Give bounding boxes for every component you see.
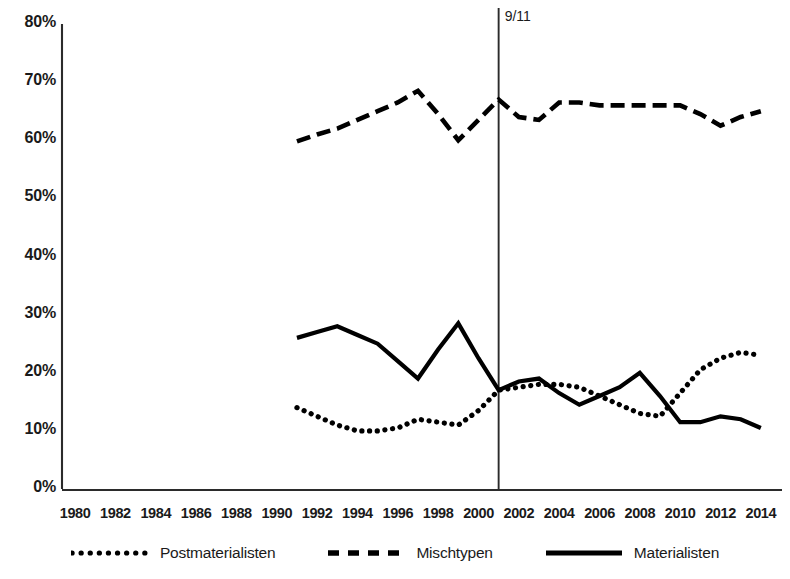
y-axis-tick-label: 70%	[0, 71, 56, 89]
x-axis-tick-label: 2008	[624, 505, 655, 521]
legend-label: Mischtypen	[416, 544, 492, 562]
legend-label: Postmaterialisten	[160, 544, 275, 562]
series-line-materialisten	[297, 323, 761, 428]
series-group	[297, 91, 761, 431]
solid-line-swatch	[545, 546, 623, 560]
y-axis-tick-label: 20%	[0, 362, 56, 380]
x-axis-tick-label: 2004	[544, 505, 575, 521]
dotted-line-swatch	[71, 546, 149, 560]
x-axis-tick-label: 1988	[221, 505, 252, 521]
y-axis-tick-label: 30%	[0, 304, 56, 322]
chart-container: 0%10%20%30%40%50%60%70%80% 1980198219841…	[0, 0, 790, 579]
x-axis-tick-label: 2006	[584, 505, 615, 521]
series-line-mischtypen	[297, 91, 761, 142]
x-axis-tick-label: 1996	[382, 505, 413, 521]
x-axis-tick-label: 2000	[463, 505, 494, 521]
x-axis-tick-label: 1990	[261, 505, 292, 521]
chart-legend: PostmaterialistenMischtypenMaterialisten	[0, 538, 790, 568]
x-axis-tick-label: 1982	[100, 505, 131, 521]
x-axis-tick-label: 2010	[665, 505, 696, 521]
y-axis-tick-label: 50%	[0, 187, 56, 205]
x-axis-tick-label: 1992	[302, 505, 333, 521]
x-axis-tick-label: 1998	[423, 505, 454, 521]
y-axis-tick-label: 0%	[0, 478, 56, 496]
x-axis-tick-label: 1984	[140, 505, 171, 521]
legend-entry-mischtypen[interactable]: Mischtypen	[327, 544, 492, 562]
y-axis-tick-label: 80%	[0, 13, 56, 31]
x-axis-tick-label: 2014	[745, 505, 776, 521]
legend-entry-materialisten[interactable]: Materialisten	[545, 544, 719, 562]
y-axis-tick-label: 60%	[0, 129, 56, 147]
y-axis-tick-label: 10%	[0, 420, 56, 438]
chart-plot-area	[0, 0, 790, 579]
x-axis-tick-label: 2002	[503, 505, 534, 521]
x-axis-tick-label: 1986	[181, 505, 212, 521]
y-axis-tick-label: 40%	[0, 246, 56, 264]
annotation-label-911: 9/11	[505, 8, 531, 24]
legend-label: Materialisten	[634, 544, 719, 562]
legend-entry-postmaterialisten[interactable]: Postmaterialisten	[71, 544, 275, 562]
dashed-line-swatch	[327, 546, 405, 560]
x-axis-tick-label: 1980	[60, 505, 91, 521]
x-axis-tick-label: 1994	[342, 505, 373, 521]
x-axis-tick-label: 2012	[705, 505, 736, 521]
series-line-postmaterialisten	[297, 352, 761, 430]
